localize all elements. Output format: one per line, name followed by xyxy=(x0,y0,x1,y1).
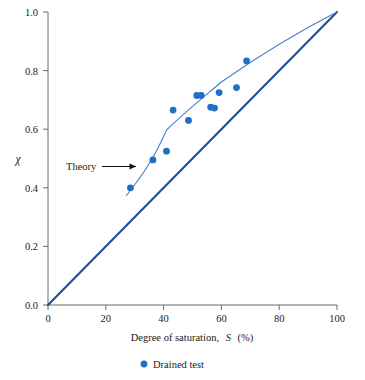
data-point[interactable] xyxy=(170,107,177,114)
figure-container: 0 20 40 60 80 100 0.0 0.2 0.4 0.6 0.8 1.… xyxy=(0,0,365,380)
y-tick-label-1.0: 1.0 xyxy=(25,7,38,18)
legend-marker-drained-test-icon xyxy=(141,361,148,368)
y-tick-label-0.4: 0.4 xyxy=(25,183,39,194)
theory-annotation-label: Theory xyxy=(66,161,97,172)
x-tick-label-20: 20 xyxy=(101,313,112,324)
y-tick-label-0.0: 0.0 xyxy=(25,300,38,311)
x-tick-label-60: 60 xyxy=(216,313,227,324)
x-axis-title-trail: (%) xyxy=(238,332,254,344)
y-tick-marks xyxy=(43,12,48,305)
equality-line xyxy=(48,12,337,305)
x-tick-label-0: 0 xyxy=(45,313,50,324)
y-tick-label-0.2: 0.2 xyxy=(25,241,38,252)
x-axis-title: Degree of saturation, S (%) xyxy=(131,332,254,344)
data-point[interactable] xyxy=(198,92,205,99)
y-tick-label-0.8: 0.8 xyxy=(25,66,38,77)
y-tick-labels: 0.0 0.2 0.4 0.6 0.8 1.0 xyxy=(25,7,39,311)
legend: Drained test xyxy=(141,359,205,370)
x-tick-label-40: 40 xyxy=(158,313,169,324)
data-point[interactable] xyxy=(233,84,240,91)
theory-curve xyxy=(126,12,337,196)
data-point[interactable] xyxy=(211,105,218,112)
data-point[interactable] xyxy=(127,184,134,191)
theory-arrow-head-icon xyxy=(130,164,137,170)
scatter-chart: 0 20 40 60 80 100 0.0 0.2 0.4 0.6 0.8 1.… xyxy=(0,0,365,380)
x-axis-title-lead: Degree of saturation, xyxy=(131,332,219,343)
y-tick-label-0.6: 0.6 xyxy=(25,124,38,135)
data-point[interactable] xyxy=(243,58,250,65)
x-tick-label-100: 100 xyxy=(329,313,345,324)
theory-annotation: Theory xyxy=(66,161,136,172)
data-point[interactable] xyxy=(163,148,170,155)
legend-label-drained-test: Drained test xyxy=(153,359,204,370)
svg-text:Degree of saturation,: Degree of saturation, S (%) xyxy=(131,332,254,344)
y-axis-title: χ xyxy=(14,153,21,166)
data-point[interactable] xyxy=(216,89,223,96)
x-axis-title-symbol: S xyxy=(226,332,232,343)
data-point[interactable] xyxy=(150,157,157,164)
data-point[interactable] xyxy=(185,117,192,124)
x-tick-labels: 0 20 40 60 80 100 xyxy=(45,313,345,324)
x-tick-marks xyxy=(48,305,337,310)
data-points-group xyxy=(127,58,250,192)
x-tick-label-80: 80 xyxy=(274,313,285,324)
